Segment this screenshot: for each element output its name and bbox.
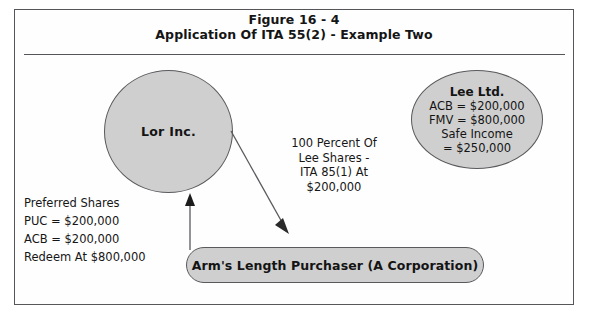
node-lee-ltd-name: Lee Ltd. <box>429 85 525 99</box>
annotation-transfer-note-line-3: ITA 85(1) At <box>268 165 400 180</box>
annotation-preferred-shares-line-4: Redeem At $800,000 <box>24 248 146 266</box>
node-arms-length-purchaser: Arm's Length Purchaser (A Corporation) <box>186 247 484 283</box>
annotation-transfer-note-line-1: 100 Percent Of <box>268 136 400 151</box>
annotation-preferred-shares-line-2: PUC = $200,000 <box>24 212 146 230</box>
annotation-transfer-note-line-2: Lee Shares - <box>268 151 400 166</box>
figure-title-line-2: Application Of ITA 55(2) - Example Two <box>14 27 574 42</box>
node-lor-inc-label: Lor Inc. <box>141 124 196 139</box>
figure-title-line-1: Figure 16 - 4 <box>14 12 574 27</box>
node-lee-ltd-safe-income-label: Safe Income <box>429 127 525 141</box>
annotation-preferred-shares: Preferred Shares PUC = $200,000 ACB = $2… <box>24 194 146 266</box>
annotation-transfer-note: 100 Percent Of Lee Shares - ITA 85(1) At… <box>268 136 400 194</box>
node-lee-ltd-fmv: FMV = $800,000 <box>429 113 525 127</box>
node-lee-ltd-text: Lee Ltd. ACB = $200,000 FMV = $800,000 S… <box>429 85 525 155</box>
node-lee-ltd: Lee Ltd. ACB = $200,000 FMV = $800,000 S… <box>411 70 543 169</box>
node-lor-inc: Lor Inc. <box>104 70 233 193</box>
node-lee-ltd-acb: ACB = $200,000 <box>429 99 525 113</box>
annotation-transfer-note-line-4: $200,000 <box>268 180 400 195</box>
figure-title: Figure 16 - 4 Application Of ITA 55(2) -… <box>14 12 574 42</box>
node-arms-length-purchaser-label: Arm's Length Purchaser (A Corporation) <box>192 258 478 273</box>
title-divider <box>24 54 565 55</box>
figure-screenshot: Figure 16 - 4 Application Of ITA 55(2) -… <box>0 0 589 321</box>
annotation-preferred-shares-line-3: ACB = $200,000 <box>24 230 146 248</box>
annotation-preferred-shares-line-1: Preferred Shares <box>24 194 146 212</box>
node-lee-ltd-safe-income-value: = $250,000 <box>429 141 525 155</box>
